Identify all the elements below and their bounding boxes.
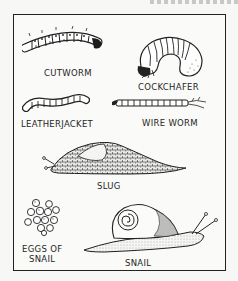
leatherjacket-illustration (22, 94, 90, 112)
cutworm-label: CUTWORM (44, 68, 92, 78)
cropped-heading-fragment (150, 0, 238, 4)
slug-label: SLUG (97, 181, 121, 191)
snail-eggs-label-line1: EGGS OF (22, 244, 62, 254)
wire-worm-illustration (112, 96, 208, 112)
snail-eggs-label-line2: SNAIL (22, 254, 62, 264)
snail-illustration (84, 202, 226, 254)
snail-label: SNAIL (125, 258, 151, 268)
cockchafer-grub-illustration (130, 30, 210, 80)
snail-eggs-label: EGGS OF SNAIL (22, 244, 62, 264)
wire-worm-label: WIRE WORM (142, 118, 198, 128)
leatherjacket-label: LEATHERJACKET (21, 119, 93, 129)
cockchafer-label: COCKCHAFER (138, 82, 199, 92)
snail-eggs-illustration (24, 198, 62, 236)
slug-illustration (40, 140, 190, 178)
cutworm-illustration (22, 26, 104, 54)
